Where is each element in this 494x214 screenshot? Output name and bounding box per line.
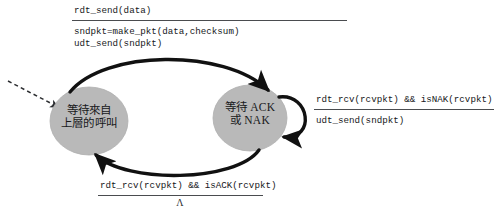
state-wait-for-ack-or-nak bbox=[213, 85, 287, 151]
action-text: udt_send(sndpkt) bbox=[316, 115, 404, 127]
event-text: rdt_rcv(rcvpkt) && isACK(rcvpkt) bbox=[100, 180, 276, 192]
transition-event-isnak: rdt_rcv(rcvpkt) && isNAK(rcvpkt) bbox=[316, 94, 492, 106]
transition-divider-bottom bbox=[98, 195, 263, 196]
transition-event-rdt-send: rdt_send(data) bbox=[74, 5, 151, 17]
transition-divider-top bbox=[72, 20, 347, 21]
event-text: rdt_rcv(rcvpkt) && isNAK(rcvpkt) bbox=[316, 94, 492, 106]
transition-action-lambda: Λ bbox=[150, 197, 210, 208]
transition-divider-self-loop bbox=[314, 109, 494, 110]
transition-event-isack: rdt_rcv(rcvpkt) && isACK(rcvpkt) bbox=[100, 180, 276, 192]
action-text: udt_send(sndpkt) bbox=[74, 38, 239, 50]
start-arrow bbox=[8, 81, 58, 107]
transition-actions-isnak: udt_send(sndpkt) bbox=[316, 115, 404, 127]
state-wait-for-call-from-above bbox=[50, 87, 128, 155]
action-text: sndpkt=make_pkt(data,checksum) bbox=[74, 26, 239, 38]
transition-actions-rdt-send: sndpkt=make_pkt(data,checksum) udt_send(… bbox=[74, 26, 239, 50]
transition-arrow-isack bbox=[96, 150, 259, 175]
fsm-diagram: 等待來自 上層的呼叫 等待 ACK 或 NAK rdt_send(data) s… bbox=[0, 0, 494, 214]
event-text: rdt_send(data) bbox=[74, 5, 151, 17]
